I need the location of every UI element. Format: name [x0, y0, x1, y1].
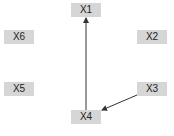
node-x1[interactable]: X1: [71, 3, 101, 17]
node-x6[interactable]: X6: [4, 30, 34, 44]
node-x4[interactable]: X4: [71, 110, 101, 124]
node-x2[interactable]: X2: [137, 30, 167, 44]
node-x5[interactable]: X5: [4, 82, 34, 96]
diagram-canvas: X1 X2 X3 X4 X5 X6: [0, 0, 174, 136]
edge-x3-to-x4: [102, 95, 137, 110]
node-x3[interactable]: X3: [137, 82, 167, 96]
